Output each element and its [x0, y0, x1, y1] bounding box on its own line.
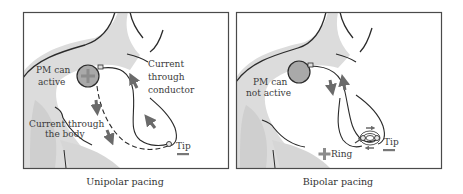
body-current-label-1: Current through	[29, 119, 105, 129]
tip-label: Tip	[384, 137, 399, 147]
tip-label: Tip	[176, 141, 191, 151]
minus-sign-icon	[177, 153, 189, 155]
pm-status-label-1: PM can	[253, 77, 288, 87]
minus-sign-icon	[383, 149, 395, 151]
unipolar-caption: Unipolar pacing	[86, 176, 164, 187]
pacemaker-can-icon	[77, 65, 103, 87]
bipolar-caption: Bipolar pacing	[303, 176, 373, 187]
pm-status-label-1: PM can	[36, 65, 71, 75]
heart-outline	[150, 98, 176, 146]
tip-electrode	[167, 142, 172, 147]
conductor-label-1: Current	[148, 59, 184, 69]
ring-electrode	[361, 136, 366, 141]
collar-outline	[150, 30, 163, 52]
conductor-label-2: through	[148, 72, 185, 82]
neck-outline	[340, 12, 353, 38]
pacing-lead	[310, 66, 376, 142]
neck-outline	[130, 12, 143, 38]
pm-status-label-2: active	[38, 77, 65, 87]
pacing-diagram: PM can active Current through conductor …	[0, 0, 463, 194]
body-current-label-2: the body	[45, 129, 86, 139]
body-current-path	[97, 86, 168, 149]
collar-outline	[360, 28, 372, 52]
arrow-icon	[330, 80, 345, 90]
bipolar-panel: PM can not active Ring Tip	[236, 12, 399, 168]
plus-sign-icon	[319, 148, 331, 160]
arrow-icon	[96, 78, 155, 140]
ring-label: Ring	[331, 149, 352, 159]
pacemaker-can-icon	[288, 61, 313, 83]
unipolar-panel: PM can active Current through conductor …	[23, 12, 195, 168]
conductor-label-3: conductor	[148, 85, 195, 95]
tip-electrode	[375, 136, 380, 141]
pm-status-label-2: not active	[246, 88, 291, 98]
